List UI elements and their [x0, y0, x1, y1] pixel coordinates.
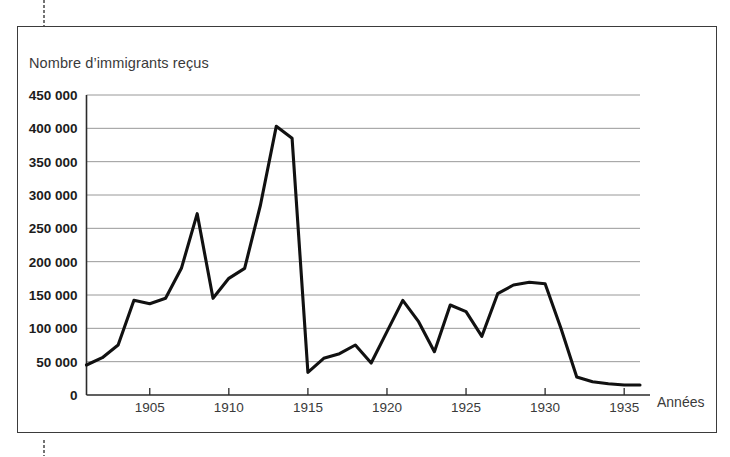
y-axis-tick-label: 350 000 [29, 155, 78, 170]
y-axis-tick-label: 450 000 [29, 88, 78, 103]
y-axis-tick-label: 200 000 [29, 255, 78, 270]
x-axis-tick-label: 1910 [214, 400, 244, 415]
y-axis-tick-label: 0 [70, 388, 78, 403]
y-axis-tick-label: 250 000 [29, 221, 78, 236]
x-axis-name: Années [657, 394, 704, 410]
y-axis-tick-label: 100 000 [29, 321, 78, 336]
x-axis-tick-label: 1925 [451, 400, 481, 415]
x-axis-tick-labels: 1905191019151920192519301935 [135, 400, 639, 415]
figure-page: Nombre d’immigrants reçus 050 000100 000… [0, 0, 730, 457]
x-axis-tick-label: 1905 [135, 400, 165, 415]
line-chart: 050 000100 000150 000200 000250 000300 0… [0, 0, 730, 457]
y-axis-tick-labels: 050 000100 000150 000200 000250 000300 0… [29, 88, 78, 403]
x-axis-tick-marks [150, 388, 624, 395]
y-axis-tick-label: 50 000 [36, 355, 77, 370]
x-axis-tick-label: 1935 [609, 400, 639, 415]
y-axis-tick-label: 300 000 [29, 188, 78, 203]
y-axis-tick-label: 400 000 [29, 121, 78, 136]
x-axis-tick-label: 1930 [530, 400, 560, 415]
x-axis-tick-label: 1915 [293, 400, 323, 415]
x-axis-tick-label: 1920 [372, 400, 402, 415]
y-axis-tick-label: 150 000 [29, 288, 78, 303]
data-series-line [87, 126, 641, 385]
